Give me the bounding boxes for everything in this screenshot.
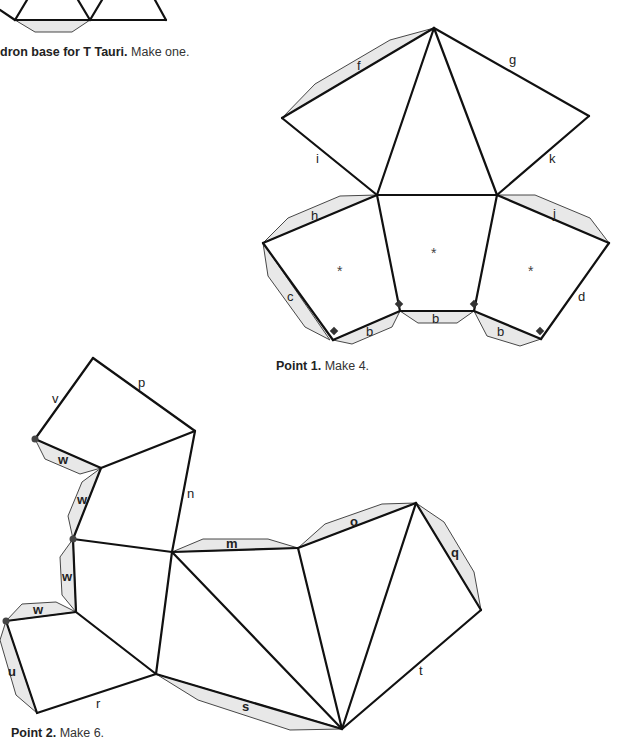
edge-label-g: g: [509, 52, 516, 67]
diamond-marker: [536, 327, 544, 335]
edge-label-i: i: [316, 151, 319, 166]
edge-label-h: h: [311, 208, 318, 223]
edge-label-q: q: [451, 545, 459, 560]
caption-point1-bold: Point 1.: [276, 359, 321, 373]
caption-point1: Point 1. Make 4.: [276, 359, 369, 373]
edge-label-w: w: [61, 569, 73, 584]
caption-point2-text: Make 6.: [56, 726, 104, 740]
edge-label-s: s: [242, 699, 249, 714]
edge-label-b: b: [432, 311, 439, 326]
caption-top: dron base for T Tauri. Make one.: [0, 45, 189, 59]
dot-marker: [32, 436, 39, 443]
point2-net: v p n w w w w m o q u r s t: [0, 358, 481, 730]
edge-label-r: r: [96, 696, 101, 711]
face-mark-star: *: [431, 245, 437, 261]
diamond-marker: [395, 300, 403, 308]
edge-label-d: d: [578, 289, 585, 304]
edge-label-p: p: [138, 375, 145, 390]
point1-net: f g i k h j c d b b b * * *: [263, 28, 609, 346]
edge-label-w: w: [57, 452, 69, 467]
dot-marker: [3, 618, 10, 625]
edge-label-k: k: [549, 151, 556, 166]
top-base-fragment: [0, 0, 166, 32]
dot-marker: [70, 536, 77, 543]
edge-label-b: b: [497, 324, 504, 339]
edge-label-o: o: [350, 514, 358, 529]
edge-label-v: v: [52, 391, 59, 406]
edge-label-w: w: [32, 602, 44, 617]
face-mark-star: *: [528, 263, 534, 279]
edge-label-w: w: [76, 492, 88, 507]
caption-point2: Point 2. Make 6.: [11, 726, 104, 740]
caption-point1-text: Make 4.: [321, 359, 369, 373]
edge-label-n: n: [187, 486, 194, 501]
edge-label-j: j: [552, 206, 556, 221]
caption-point2-bold: Point 2.: [11, 726, 56, 740]
edge-label-m: m: [226, 536, 238, 551]
edge-label-u: u: [8, 664, 16, 679]
diamond-marker: [330, 327, 338, 335]
edge-label-c: c: [287, 289, 294, 304]
edge-label-f: f: [357, 58, 361, 73]
edge-label-b: b: [366, 324, 373, 339]
caption-top-text: Make one.: [128, 45, 190, 59]
glue-tab: [15, 20, 90, 32]
caption-top-bold: dron base for T Tauri.: [0, 45, 128, 59]
face-mark-star: *: [337, 263, 343, 279]
edge-label-t: t: [419, 663, 423, 678]
